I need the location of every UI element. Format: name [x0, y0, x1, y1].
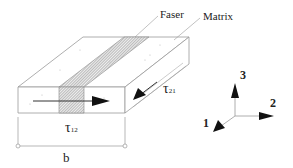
- fiber-strip-front: [59, 87, 84, 113]
- tau21-label: τ21: [163, 81, 176, 96]
- coordinate-axes: [213, 83, 274, 132]
- axis1-label: 1: [203, 116, 209, 130]
- axis3-arrowhead: [231, 83, 239, 98]
- axis2-label: 2: [270, 96, 276, 110]
- diagram-canvas: Faser Matrix τ21 τ12 b 3 2 1: [0, 0, 293, 168]
- fiber-label: Faser: [160, 8, 184, 20]
- matrix-label: Matrix: [203, 10, 233, 22]
- axis3-label: 3: [240, 68, 246, 82]
- tau12-label: τ12: [65, 120, 78, 135]
- axis1-arrowhead: [213, 120, 225, 132]
- axis2-arrowhead: [259, 112, 274, 120]
- width-label: b: [63, 150, 70, 165]
- fiber-leader-line: [135, 16, 158, 37]
